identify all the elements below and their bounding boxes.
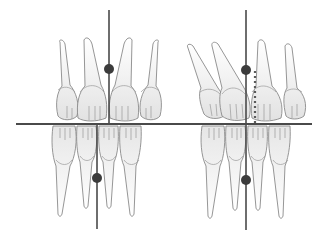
right-lower-midline-marker xyxy=(241,175,251,185)
tooth-lower-5 xyxy=(201,126,225,218)
tooth-lower-4 xyxy=(120,126,142,216)
tooth-upper-central-left-2 xyxy=(109,38,138,121)
tooth-lower-6 xyxy=(226,126,246,210)
tooth-lower-1 xyxy=(52,126,76,216)
tooth-lower-7 xyxy=(248,126,268,210)
tooth-upper-lateral-right-2 xyxy=(284,44,306,119)
left-lower-midline-marker xyxy=(92,173,102,183)
tooth-lower-8 xyxy=(269,126,291,218)
right-upper-midline-marker xyxy=(241,65,251,75)
left-upper-midline-marker xyxy=(104,64,114,74)
tooth-lower-2 xyxy=(77,126,97,208)
tooth-upper-central-left-1 xyxy=(77,38,106,121)
tooth-upper-central-right-2 xyxy=(251,40,282,121)
diagram-canvas xyxy=(0,0,323,242)
tooth-lower-3 xyxy=(99,126,119,208)
dental-midline-diagram xyxy=(0,0,323,242)
